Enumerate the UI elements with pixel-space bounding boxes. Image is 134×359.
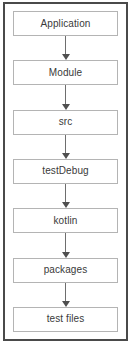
connector-line <box>65 283 66 302</box>
flow-node-packages[interactable]: packages <box>13 258 118 283</box>
flow-node-label: Module <box>49 68 82 78</box>
flow-node-label: testDebug <box>42 166 89 176</box>
flow-connector-kotlin-packages <box>13 233 118 257</box>
flow-node-module[interactable]: Module <box>13 60 118 85</box>
flow-connector-src-testdebug <box>13 135 118 159</box>
connector-line <box>65 85 66 104</box>
flow-node-label: kotlin <box>54 216 78 226</box>
connector-line <box>65 36 66 55</box>
connector-line <box>65 184 66 203</box>
flow-node-label: Application <box>40 19 90 29</box>
flow-node-test-files[interactable]: test files <box>13 307 118 332</box>
flow-node-kotlin[interactable]: kotlin <box>13 208 118 233</box>
flow-node-label: src <box>59 117 73 127</box>
flow-node-testdebug[interactable]: testDebug <box>13 159 118 184</box>
connector-line <box>65 233 66 252</box>
flow-node-application[interactable]: Application <box>13 11 118 36</box>
flow-node-label: test files <box>47 314 85 324</box>
flow-connector-packages-test-files <box>13 283 118 307</box>
diagram-frame: Application Module src testDebug <box>3 2 128 341</box>
flow-connector-module-src <box>13 85 118 109</box>
flow-connector-testdebug-kotlin <box>13 184 118 208</box>
connector-line <box>65 135 66 154</box>
flow-connector-application-module <box>13 36 118 60</box>
flow-node-label: packages <box>44 265 88 275</box>
flow-node-src[interactable]: src <box>13 110 118 135</box>
flowchart-node-stack: Application Module src testDebug <box>5 4 126 339</box>
